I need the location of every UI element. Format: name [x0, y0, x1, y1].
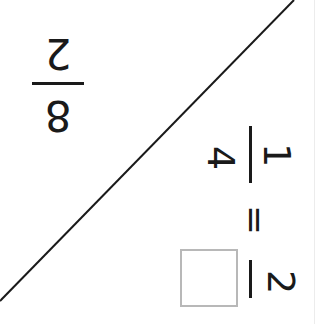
equals-sign: =: [233, 200, 273, 240]
fraction-bar: [32, 82, 84, 85]
fraction-one-bar: [249, 126, 252, 183]
answer-input-box[interactable]: [180, 249, 238, 307]
worksheet-canvas: 8 2 1 4 = 2: [0, 0, 319, 324]
fraction-denominator: 2: [28, 32, 88, 74]
fraction-one-denominator: 4: [200, 138, 240, 178]
upside-down-fraction: 8 2: [28, 28, 88, 140]
fraction-numerator: 8: [28, 94, 88, 136]
rotated-equation: 1 4 = 2: [180, 120, 310, 315]
fraction-two-numerator: 2: [260, 262, 300, 302]
fraction-one-numerator: 1: [256, 135, 296, 175]
fraction-two-bar: [249, 260, 252, 298]
